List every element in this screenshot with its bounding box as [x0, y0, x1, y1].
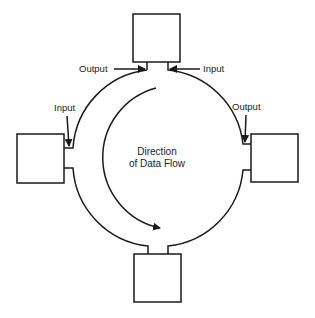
center-label-line1: Direction [137, 146, 176, 157]
arrow-left-input [67, 116, 69, 146]
label-top-output: Output [79, 63, 108, 74]
label-right-output: Output [232, 101, 261, 112]
ring-diagram: Output Input Input Output Direction of D… [0, 0, 315, 318]
center-label-line2: of Data Flow [129, 158, 186, 169]
ring-segment-bottom-right [168, 170, 251, 254]
arrow-right-output [245, 115, 246, 142]
node-left [17, 134, 64, 183]
label-left-input: Input [54, 102, 75, 113]
label-top-input: Input [203, 63, 224, 74]
node-bottom [134, 254, 181, 302]
node-right [251, 134, 298, 182]
node-top [133, 14, 180, 62]
